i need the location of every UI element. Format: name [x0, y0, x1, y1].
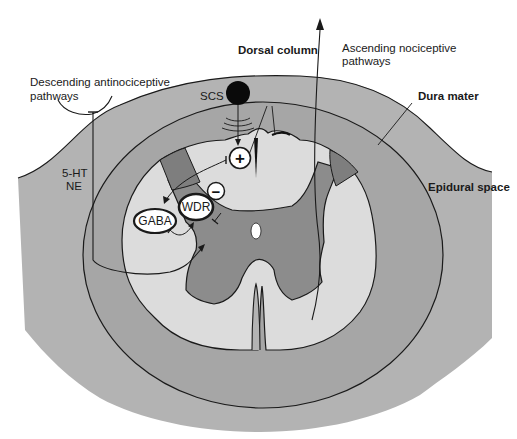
scs-label: SCS [200, 90, 224, 102]
spinal-cord-scs-diagram: + − WDR GABA Dorsal column Ascending noc… [0, 0, 517, 439]
gaba-label: GABA [138, 214, 171, 228]
ascending-label-line1: Ascending nociceptive [342, 42, 456, 54]
descending-label-line1: Descending antinociceptive [30, 76, 170, 88]
plus-sign-icon: + [235, 149, 245, 168]
descending-label-line2: pathways [30, 90, 79, 102]
epidural-space-label: Epidural space [428, 181, 510, 193]
serotonin-label: 5-HT [62, 167, 88, 179]
minus-sign-icon: − [212, 183, 221, 200]
dura-mater-label: Dura mater [418, 90, 479, 102]
diagram-canvas: + − WDR GABA Dorsal column Ascending noc… [0, 0, 517, 439]
central-canal [251, 223, 261, 239]
norepinephrine-label: NE [66, 180, 82, 192]
dorsal-column-label: Dorsal column [238, 44, 318, 56]
scs-electrode [226, 81, 250, 105]
wdr-label: WDR [182, 200, 211, 214]
ascending-arrowhead [316, 18, 324, 30]
ascending-label-line2: pathways [342, 55, 391, 67]
